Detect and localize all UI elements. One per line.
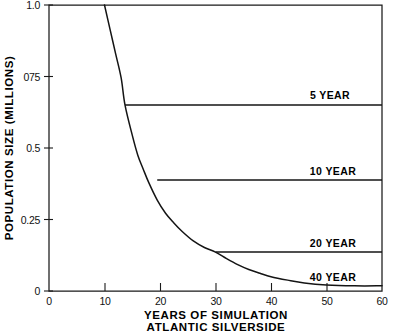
y-axis-title: POPULATION SIZE (MILLIONS)	[3, 56, 15, 241]
label-10-year: 10 YEAR	[310, 165, 356, 177]
y-tick-label-075: 075	[23, 71, 40, 83]
y-tick-label-05: 0.5	[26, 142, 40, 154]
label-40-year: 40 YEAR	[310, 271, 356, 283]
x-axis-title: YEARS OF SIMULATION	[144, 309, 288, 321]
x-tick-label-0: 0	[46, 295, 52, 307]
x-tick-label-20: 20	[155, 295, 167, 307]
y-tick-label-0: 0	[34, 285, 40, 297]
x-axis-subtitle: ATLANTIC SILVERSIDE	[147, 321, 286, 333]
x-tick-label-50: 50	[321, 295, 333, 307]
x-tick-label-30: 30	[210, 295, 222, 307]
x-tick-label-10: 10	[99, 295, 111, 307]
label-5-year: 5 YEAR	[310, 89, 350, 101]
population-decline-line-chart: 1.0 075 0.5 0.25 0 0 10 20 30 40 50 60	[0, 0, 398, 333]
y-tick-label-025: 0.25	[21, 214, 41, 226]
x-tick-label-60: 60	[376, 295, 388, 307]
label-20-year: 20 YEAR	[310, 237, 356, 249]
y-tick-label-1-0: 1.0	[26, 0, 40, 11]
x-tick-label-40: 40	[266, 295, 278, 307]
chart-figure: 1.0 075 0.5 0.25 0 0 10 20 30 40 50 60	[0, 0, 398, 333]
